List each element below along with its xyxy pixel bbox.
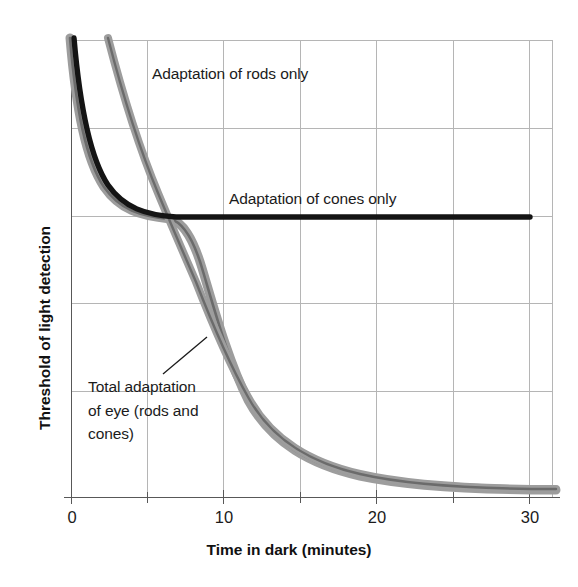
annotation-total-adaptation-label: Total adaptation of eye (rods and cones): [88, 375, 198, 446]
dark-adaptation-chart: Adaptation of rods only Adaptation of co…: [0, 0, 578, 587]
annotation-cones-label: Adaptation of cones only: [229, 190, 396, 208]
y-axis-title: Threshold of light detection: [36, 226, 54, 430]
x-tick-label-30: 30: [510, 508, 550, 527]
chart-plot-area: [0, 0, 578, 587]
x-axis-title: Time in dark (minutes): [0, 541, 578, 559]
x-tick-label-20: 20: [357, 508, 397, 527]
leader-line-total-adaptation: [163, 337, 207, 374]
x-tick-label-10: 10: [204, 508, 244, 527]
annotation-rods-label: Adaptation of rods only: [152, 65, 308, 83]
x-tick-label-0: 0: [52, 508, 92, 527]
